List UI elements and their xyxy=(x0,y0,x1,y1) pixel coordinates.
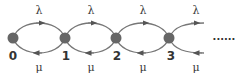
forward-rate-label-3-more: λ xyxy=(193,4,200,17)
transition-1-2 xyxy=(65,23,116,53)
state-node-2 xyxy=(111,33,122,44)
forward-arc-0-1 xyxy=(13,23,65,38)
forward-rate-label-2-3: λ xyxy=(140,4,147,17)
state-label-2: 2 xyxy=(113,49,121,63)
continuation-ellipsis: ...... xyxy=(213,31,236,42)
forward-arc-3-more xyxy=(169,23,204,38)
forward-rate-label-0-1: λ xyxy=(36,4,43,17)
forward-arc-1-2 xyxy=(65,23,116,38)
state-node-3 xyxy=(164,33,175,44)
birth-death-diagram: 0 1 2 3 λ λ λ λ μ μ μ μ ...... xyxy=(0,0,248,77)
forward-arc-2-3 xyxy=(116,23,169,38)
transition-0-1 xyxy=(13,23,65,53)
transition-2-3 xyxy=(116,23,169,53)
state-node-1 xyxy=(60,33,71,44)
backward-arc-1-2 xyxy=(65,38,116,53)
state-node-0 xyxy=(8,33,19,44)
forward-rate-label-1-2: λ xyxy=(88,4,95,17)
state-label-3: 3 xyxy=(167,49,175,63)
backward-arc-0-1 xyxy=(13,38,65,53)
backward-rate-label-0-1: μ xyxy=(35,61,42,74)
backward-rate-label-2-3: μ xyxy=(139,61,146,74)
backward-arc-2-3 xyxy=(116,38,169,53)
state-label-0: 0 xyxy=(9,49,17,63)
state-label-1: 1 xyxy=(62,49,70,63)
backward-rate-label-3-more: μ xyxy=(192,61,199,74)
backward-rate-label-1-2: μ xyxy=(87,61,94,74)
